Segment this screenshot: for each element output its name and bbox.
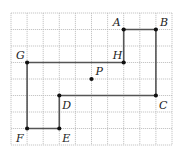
grid-diagram: ABHGPDCEF xyxy=(0,0,179,148)
label-b: B xyxy=(159,16,168,29)
point-d xyxy=(57,93,61,97)
label-e: E xyxy=(61,132,70,145)
point-b xyxy=(154,27,158,31)
label-p: P xyxy=(95,65,104,78)
label-d: D xyxy=(61,99,71,112)
label-c: C xyxy=(159,99,168,112)
point-f xyxy=(25,126,29,130)
point-e xyxy=(57,126,61,130)
point-a xyxy=(122,27,126,31)
label-a: A xyxy=(112,16,121,29)
label-f: F xyxy=(15,132,24,145)
label-g: G xyxy=(16,49,25,62)
point-g xyxy=(25,60,29,64)
label-h: H xyxy=(112,49,123,62)
point-c xyxy=(154,93,158,97)
point-p xyxy=(89,77,93,81)
